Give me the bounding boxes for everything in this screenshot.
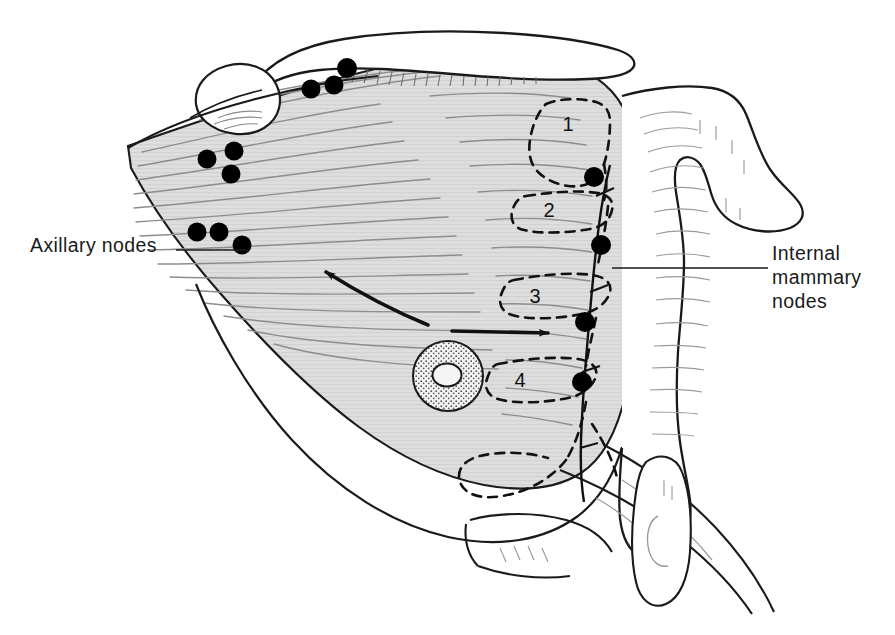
node-supraclavicular <box>337 58 357 78</box>
node-supraclavicular <box>325 76 344 95</box>
internal-mammary-nodes-label-line3: nodes <box>772 290 827 312</box>
humeral-head <box>196 64 280 134</box>
internal-mammary-nodes-label-line2: mammary <box>772 266 861 288</box>
xiphoid-process <box>632 457 691 606</box>
anatomy-illustration: Axillary nodes Internal mammary nodes 1 … <box>0 0 895 635</box>
node-infraclavicular <box>222 165 241 184</box>
nipple-areola <box>413 341 483 411</box>
node-axillary <box>188 223 207 242</box>
region-number-4: 4 <box>514 369 525 391</box>
node-axillary <box>210 223 229 242</box>
rib-stub <box>466 514 613 578</box>
lymphatic-drainage-figure: Axillary nodes Internal mammary nodes 1 … <box>0 0 895 635</box>
region-number-2: 2 <box>543 199 554 221</box>
node-infraclavicular <box>225 142 244 161</box>
node-internal-mammary <box>572 372 592 392</box>
node-supraclavicular <box>302 80 321 99</box>
axillary-nodes-label: Axillary nodes <box>30 234 157 256</box>
arrow-to-internal-mammary <box>452 331 548 333</box>
node-infraclavicular <box>198 150 217 169</box>
node-internal-mammary <box>584 167 604 187</box>
node-internal-mammary <box>591 235 611 255</box>
internal-mammary-nodes-label-line1: Internal <box>772 242 840 264</box>
node-internal-mammary <box>575 312 595 332</box>
region-number-1: 1 <box>562 113 573 135</box>
node-axillary <box>233 236 252 255</box>
region-number-3: 3 <box>529 285 540 307</box>
